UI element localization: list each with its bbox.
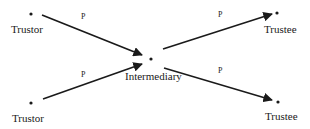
diagram-canvas [0,0,310,129]
edge-intermediary-to-trustee-top [163,14,272,49]
trustee-top-dot [275,11,278,14]
trustee-bottom-dot [276,100,279,103]
trust-diagram: Trustor Trustor Intermediary Trustee Tru… [0,0,310,129]
edge-label-top-left: P [81,12,85,21]
trustor-top-dot [29,12,32,15]
intermediary-label: Intermediary [125,70,182,82]
trustee-bottom-label: Trustee [265,110,298,122]
trustor-top-label: Trustor [11,23,43,35]
trustor-bottom-dot [29,101,32,104]
trustee-top-label: Trustee [264,23,297,35]
edge-label-bottom-right: P [218,66,222,75]
intermediary-dot [149,57,152,60]
trustor-bottom-label: Trustor [12,112,44,124]
edge-trustor-top-to-intermediary [42,15,142,55]
edge-label-bottom-left: P [81,70,85,79]
edge-label-top-right: P [218,10,222,19]
